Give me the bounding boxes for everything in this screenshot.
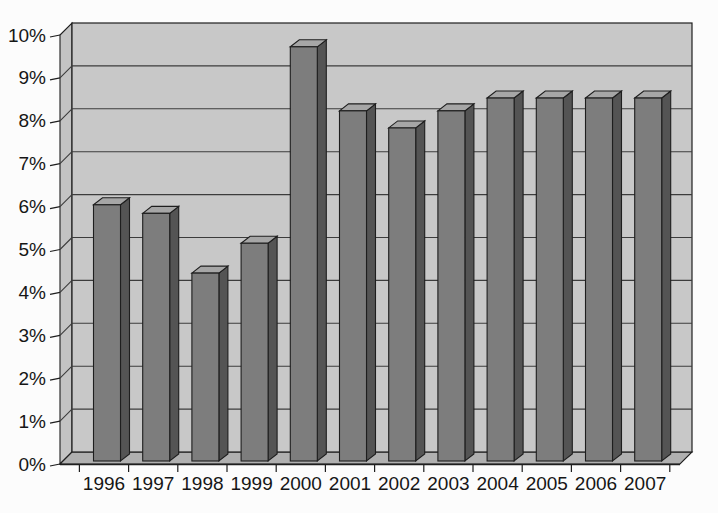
bar-front-face [438, 111, 465, 461]
y-tick-label-4: 4% [19, 282, 47, 303]
bar-side-face [416, 121, 425, 461]
x-tick-label-2006: 2006 [575, 473, 617, 494]
y-tick-label-9: 9% [19, 67, 47, 88]
bar-side-face [121, 198, 130, 461]
bar-chart-3d-figure: 0%1%2%3%4%5%6%7%8%9%10%19961997199819992… [0, 0, 718, 513]
bar-2005 [536, 91, 572, 461]
bar-2003 [438, 104, 474, 461]
bar-side-face [367, 104, 376, 461]
bar-2001 [340, 104, 376, 461]
x-tick-label-2001: 2001 [329, 473, 371, 494]
bar-side-face [662, 91, 671, 461]
bar-2004 [487, 91, 523, 461]
bar-side-face [170, 206, 179, 461]
x-tick-label-1998: 1998 [181, 473, 223, 494]
bar-front-face [290, 47, 317, 461]
bar-2007 [635, 91, 671, 461]
bar-side-face [613, 91, 622, 461]
y-tick-label-3: 3% [19, 325, 47, 346]
bar-side-face [563, 91, 572, 461]
y-tick-label-6: 6% [19, 196, 47, 217]
x-tick-label-1996: 1996 [83, 473, 125, 494]
y-tick-label-1: 1% [19, 411, 47, 432]
bar-side-face [317, 40, 326, 461]
x-tick-label-2004: 2004 [476, 473, 519, 494]
bar-1998 [192, 266, 228, 461]
y-tick-label-2: 2% [19, 368, 47, 389]
bar-2006 [586, 91, 622, 461]
y-tick-label-5: 5% [19, 239, 47, 260]
bar-front-face [586, 98, 613, 461]
bar-front-face [192, 273, 219, 461]
y-tick-label-10: 10% [8, 25, 46, 46]
bar-2002 [389, 121, 425, 461]
x-tick-label-2005: 2005 [526, 473, 568, 494]
y-tick-label-7: 7% [19, 153, 47, 174]
bar-side-face [465, 104, 474, 461]
bar-2000 [290, 40, 326, 461]
x-tick-label-1999: 1999 [230, 473, 272, 494]
scanned-chart-page: 0%1%2%3%4%5%6%7%8%9%10%19961997199819992… [0, 0, 718, 513]
bar-side-face [268, 236, 277, 461]
bar-side-face [514, 91, 523, 461]
y-tick-label-8: 8% [19, 110, 47, 131]
bar-front-face [143, 213, 170, 461]
bar-front-face [94, 205, 121, 461]
x-tick-label-2007: 2007 [624, 473, 666, 494]
bar-front-face [536, 98, 563, 461]
x-tick-label-2000: 2000 [280, 473, 322, 494]
bar-1997 [143, 206, 179, 461]
bar-side-face [219, 266, 228, 461]
x-tick-label-1997: 1997 [132, 473, 174, 494]
bar-1996 [94, 198, 130, 461]
bar-front-face [241, 243, 268, 461]
bar-front-face [635, 98, 662, 461]
bar-front-face [340, 111, 367, 461]
bar-front-face [487, 98, 514, 461]
x-tick-label-2002: 2002 [378, 473, 420, 494]
bar-front-face [389, 128, 416, 461]
bar-1999 [241, 236, 277, 461]
x-tick-label-2003: 2003 [427, 473, 469, 494]
chart-canvas: 0%1%2%3%4%5%6%7%8%9%10%19961997199819992… [0, 0, 718, 513]
y-tick-label-0: 0% [19, 454, 47, 475]
